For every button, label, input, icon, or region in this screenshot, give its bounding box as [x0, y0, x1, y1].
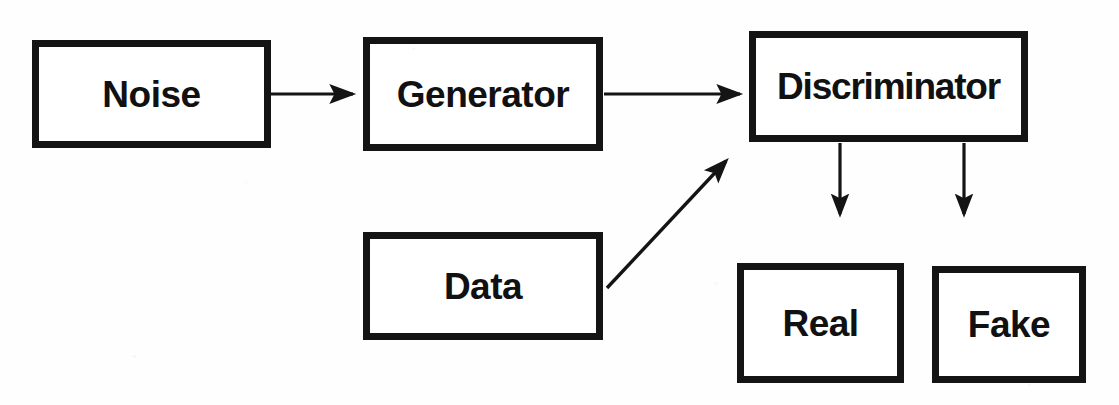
node-real: Real	[737, 263, 904, 383]
node-real-label: Real	[782, 305, 858, 342]
node-noise: Noise	[32, 40, 271, 148]
node-generator-label: Generator	[397, 76, 569, 113]
node-discriminator-label: Discriminator	[777, 68, 1000, 105]
node-data-label: Data	[444, 268, 522, 305]
node-discriminator: Discriminator	[749, 31, 1028, 142]
node-generator: Generator	[363, 37, 603, 151]
node-fake-label: Fake	[968, 306, 1050, 343]
node-fake: Fake	[932, 266, 1086, 383]
gan-diagram-canvas: Noise Generator Discriminator Data Real …	[0, 0, 1119, 405]
node-data: Data	[363, 232, 603, 340]
edge-data-to-discriminator	[607, 161, 726, 288]
node-noise-label: Noise	[102, 76, 200, 113]
